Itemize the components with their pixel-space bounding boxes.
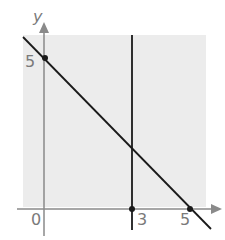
y-tick-label-5: 5 bbox=[25, 52, 35, 71]
x-axis-arrow-icon bbox=[211, 204, 222, 214]
x-tick-label-3: 3 bbox=[137, 210, 147, 229]
x-tick-label-5: 5 bbox=[180, 210, 190, 229]
point-0-5 bbox=[42, 55, 48, 61]
y-axis-label: y bbox=[32, 7, 43, 26]
point-3-0 bbox=[129, 206, 135, 212]
shaded-region bbox=[23, 35, 206, 207]
origin-label: 0 bbox=[31, 210, 41, 229]
graph: y 5 0 3 5 bbox=[0, 0, 225, 240]
